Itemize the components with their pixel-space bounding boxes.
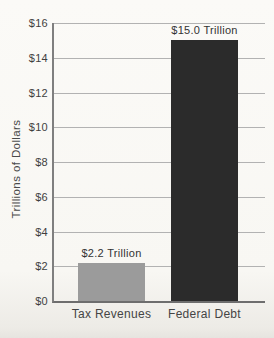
y-tick-label: $16 xyxy=(29,17,48,29)
bar-chart-figure: Trillions of Dollars $0$2$4$6$8$10$12$14… xyxy=(0,0,274,338)
y-tick-label: $6 xyxy=(35,191,48,203)
y-tick-label: $10 xyxy=(29,121,48,133)
y-tick-label: $14 xyxy=(29,52,48,64)
plot-area: $2.2 Trillion$15.0 Trillion xyxy=(52,23,265,303)
y-tick-label: $12 xyxy=(29,87,48,99)
x-category-label-tax-revenues: Tax Revenues xyxy=(72,307,152,321)
y-tick-label: $8 xyxy=(35,156,48,168)
x-category-label-federal-debt: Federal Debt xyxy=(168,307,241,321)
bar-federal-debt xyxy=(171,40,238,301)
bar-value-label-tax-revenues: $2.2 Trillion xyxy=(81,247,141,259)
bar-value-label-federal-debt: $15.0 Trillion xyxy=(171,24,238,36)
y-tick-label: $4 xyxy=(35,226,48,238)
y-tick-label: $0 xyxy=(35,295,48,307)
bar-tax-revenues xyxy=(78,263,145,301)
y-tick-label: $2 xyxy=(35,260,48,272)
y-axis-tick-labels: $0$2$4$6$8$10$12$14$16 xyxy=(0,0,48,338)
